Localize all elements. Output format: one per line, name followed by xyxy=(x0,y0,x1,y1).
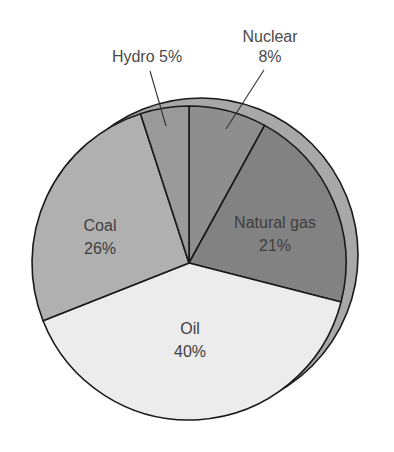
slice-label-coal: Coal xyxy=(84,217,117,234)
pie-slices xyxy=(32,106,346,420)
slice-percent-natural-gas: 21% xyxy=(259,237,291,254)
slice-label-oil: Oil xyxy=(180,320,200,337)
slice-percent-coal: 26% xyxy=(84,240,116,257)
slice-label-natural-gas: Natural gas xyxy=(234,214,316,231)
slice-label-hydro: Hydro 5% xyxy=(112,48,182,65)
slice-percent-nuclear: 8% xyxy=(258,48,281,65)
pie-chart: Nuclear8%Natural gas21%Oil40%Coal26%Hydr… xyxy=(0,0,394,452)
slice-label-nuclear: Nuclear xyxy=(242,28,298,45)
slice-percent-oil: 40% xyxy=(174,343,206,360)
